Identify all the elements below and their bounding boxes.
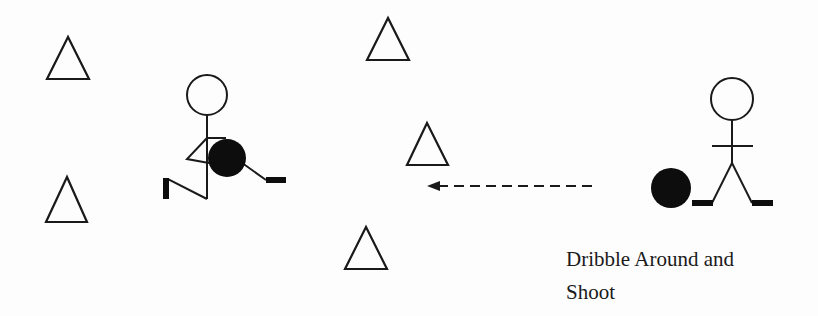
- player-arm: [187, 138, 209, 163]
- drill-diagram: Dribble Around and Shoot: [0, 0, 818, 316]
- player-leg: [712, 163, 732, 203]
- cone-icon: [46, 177, 87, 222]
- caption-line-2: Shoot: [566, 276, 734, 309]
- cone-icon: [367, 18, 409, 60]
- player-foot: [692, 200, 713, 206]
- player-foot: [163, 178, 169, 199]
- cone-icon: [407, 123, 448, 165]
- dribble-path-arrow: [427, 181, 592, 191]
- player-foot: [266, 177, 286, 183]
- cone-icon: [47, 37, 89, 79]
- player-foot: [752, 200, 773, 206]
- soccer-ball-icon: [651, 168, 691, 208]
- drill-caption: Dribble Around and Shoot: [566, 243, 734, 309]
- soccer-ball-icon: [208, 139, 246, 177]
- player-leg: [166, 179, 207, 199]
- arrowhead-left-icon: [427, 181, 440, 191]
- player-head-icon: [711, 78, 753, 120]
- player-leg: [732, 163, 752, 203]
- dribbling-player-figure: [163, 75, 286, 199]
- caption-line-1: Dribble Around and: [566, 243, 734, 276]
- player-head-icon: [187, 75, 227, 115]
- cone-icon: [345, 227, 387, 269]
- starting-player-figure: [651, 78, 773, 208]
